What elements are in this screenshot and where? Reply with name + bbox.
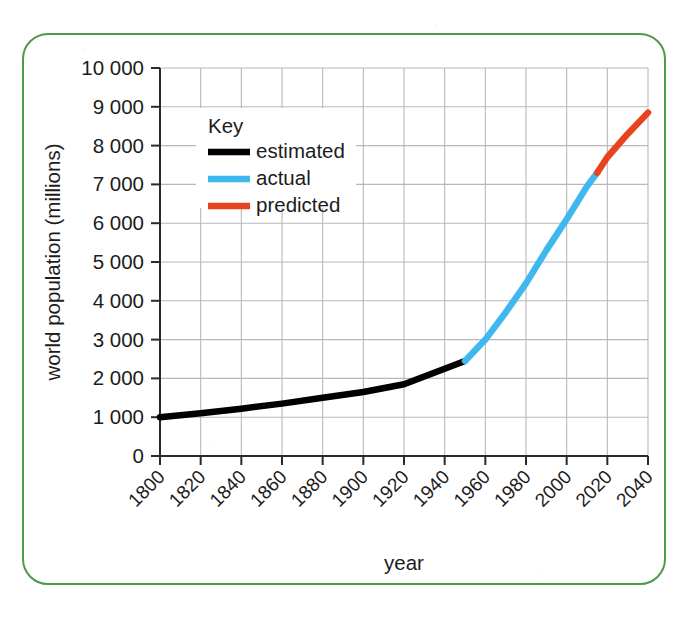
x-axis-tick-label: 1860	[246, 466, 291, 511]
x-axis-tick-label: 1880	[287, 466, 332, 511]
y-axis-title: world population (millions)	[41, 144, 64, 382]
y-axis-tick-label: 5 000	[93, 250, 144, 273]
x-axis-tick-label: 1980	[490, 466, 535, 511]
y-axis-tick-label: 0	[133, 444, 144, 467]
legend-label-predicted: predicted	[256, 193, 340, 216]
legend-title: Key	[208, 114, 244, 137]
y-axis-tick-label: 2 000	[93, 366, 144, 389]
y-axis-tick-label: 8 000	[93, 134, 144, 157]
legend-label-actual: actual	[256, 166, 311, 189]
y-axis-tick-labels: 01 0002 0003 0004 0005 0006 0007 0008 00…	[81, 56, 144, 467]
legend-label-estimated: estimated	[256, 139, 345, 162]
x-axis-tick-label: 2020	[571, 466, 616, 511]
y-axis-tick-label: 6 000	[93, 211, 144, 234]
y-axis-tick-label: 3 000	[93, 328, 144, 351]
x-axis-title: year	[384, 551, 424, 574]
x-axis-tick-label: 1820	[165, 466, 210, 511]
x-axis-tick-labels: 1800182018401860188019001920194019601980…	[124, 466, 657, 511]
population-line-chart: 01 0002 0003 0004 0005 0006 0007 0008 00…	[0, 0, 692, 619]
x-axis-tick-label: 1960	[449, 466, 494, 511]
x-axis-tick-label: 1940	[409, 466, 454, 511]
chart-canvas: 01 0002 0003 0004 0005 0006 0007 0008 00…	[0, 0, 692, 619]
x-axis-tick-label: 1900	[327, 466, 372, 511]
y-axis-tick-label: 4 000	[93, 289, 144, 312]
x-axis-tick-label: 1920	[368, 466, 413, 511]
series-line-estimated	[160, 361, 465, 417]
x-axis-tick-label: 1800	[124, 466, 169, 511]
x-axis-tick-label: 2000	[531, 466, 576, 511]
series-line-predicted	[597, 113, 648, 173]
y-axis-tick-label: 10 000	[81, 56, 144, 79]
y-axis-tick-label: 9 000	[93, 95, 144, 118]
x-axis-tick-label: 2040	[612, 466, 657, 511]
chart-legend: Key estimatedactualpredicted	[196, 108, 356, 216]
y-axis-tick-label: 7 000	[93, 172, 144, 195]
x-axis-tick-label: 1840	[205, 466, 250, 511]
y-axis-tick-label: 1 000	[93, 405, 144, 428]
